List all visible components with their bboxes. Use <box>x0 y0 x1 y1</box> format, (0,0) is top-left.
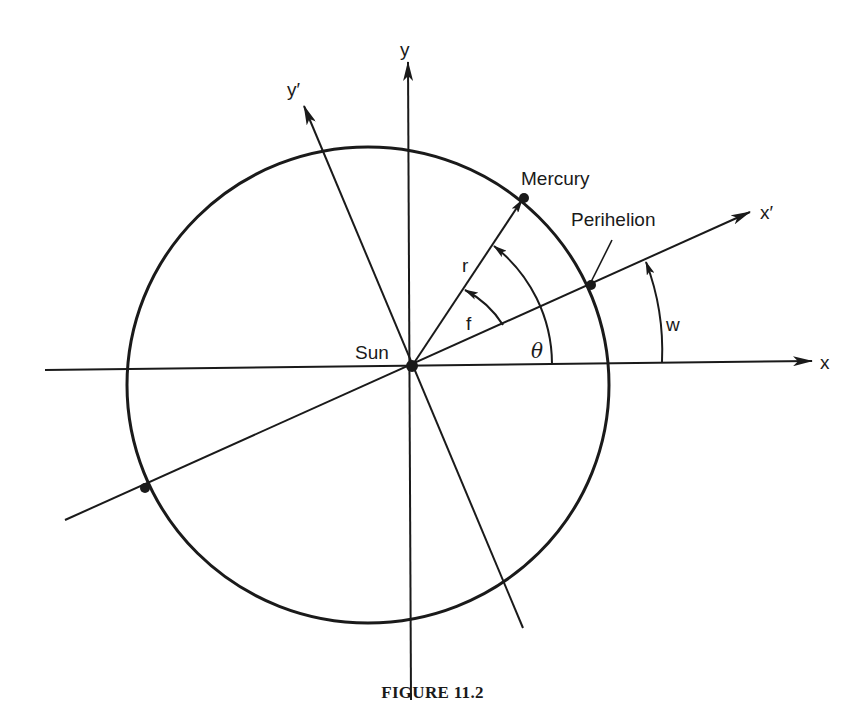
orbit-diagram: y x x′ y′ Sun Mercury Perihelion r f θ w <box>0 0 865 722</box>
radius-vector <box>412 200 522 366</box>
y-axis-label: y <box>400 39 410 60</box>
x-prime-axis-label: x′ <box>760 202 774 223</box>
y-prime-axis-label: y′ <box>287 79 301 100</box>
sun-point <box>406 360 418 372</box>
y-axis <box>408 62 411 700</box>
x-axis-label: x <box>820 352 830 373</box>
perihelion-argument-label: w <box>665 314 680 335</box>
perihelion-point <box>586 280 596 290</box>
figure-caption: FIGURE 11.2 <box>0 683 865 703</box>
true-anomaly-label: f <box>466 313 472 334</box>
perihelion-pointer <box>590 240 612 284</box>
angle-arc-w <box>646 262 662 362</box>
perihelion-label: Perihelion <box>571 209 656 230</box>
x-axis <box>45 361 812 370</box>
aphelion-point <box>140 483 150 493</box>
radius-label: r <box>462 255 469 276</box>
theta-label: θ <box>531 339 543 363</box>
orbit-ellipse <box>127 147 609 623</box>
mercury-label: Mercury <box>521 168 590 189</box>
sun-label: Sun <box>355 342 389 363</box>
mercury-point <box>519 193 529 203</box>
